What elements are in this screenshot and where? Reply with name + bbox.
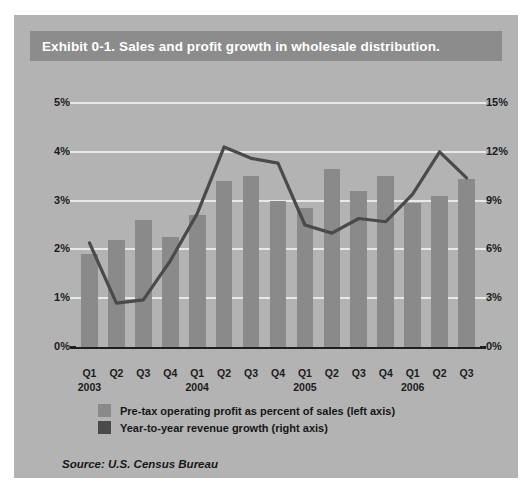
- x-tick-label: Q2: [318, 367, 345, 379]
- right-axis-tick-label: 6%: [486, 242, 526, 254]
- plot-frame: 0%1%2%3%4%5% 0%3%6%9%12%15% Q12003Q2Q3Q4…: [28, 85, 504, 357]
- chart-source: Source: U.S. Census Bureau: [62, 458, 218, 470]
- left-axis-tick-label: 0%: [36, 340, 70, 352]
- x-tick-quarter: Q2: [103, 367, 130, 379]
- left-tick-mark: [70, 248, 76, 250]
- x-tick-label: Q3: [130, 367, 157, 379]
- chart-title-bar: Exhibit 0-1. Sales and profit growth in …: [30, 31, 502, 61]
- x-tick-year: 2006: [399, 381, 426, 393]
- x-tick-quarter: Q1: [291, 367, 318, 379]
- right-axis-tick-label: 3%: [486, 291, 526, 303]
- x-tick-label: Q12003: [76, 367, 103, 393]
- x-tick-label: Q4: [157, 367, 184, 379]
- x-tick-label: Q2: [211, 367, 238, 379]
- x-tick-quarter: Q4: [372, 367, 399, 379]
- revenue-growth-line: [89, 147, 466, 303]
- x-tick-label: Q3: [238, 367, 265, 379]
- x-tick-quarter: Q3: [453, 367, 480, 379]
- legend-label-line: Year-to-year revenue growth (right axis): [120, 422, 328, 434]
- left-axis-tick-label: 2%: [36, 242, 70, 254]
- x-tick-quarter: Q3: [345, 367, 372, 379]
- x-tick-quarter: Q2: [211, 367, 238, 379]
- x-tick-quarter: Q4: [157, 367, 184, 379]
- legend-swatch-bar: [98, 404, 111, 417]
- chart-title: Exhibit 0-1. Sales and profit growth in …: [30, 39, 440, 54]
- x-tick-quarter: Q3: [238, 367, 265, 379]
- x-tick-label: Q4: [265, 367, 292, 379]
- x-tick-label: Q4: [372, 367, 399, 379]
- left-tick-mark: [70, 297, 76, 299]
- x-tick-label: Q2: [103, 367, 130, 379]
- legend-label-bar: Pre-tax operating profit as percent of s…: [120, 405, 395, 417]
- line-series-svg: [76, 103, 480, 347]
- left-tick-mark: [70, 200, 76, 202]
- x-tick-quarter: Q1: [184, 367, 211, 379]
- x-tick-quarter: Q2: [426, 367, 453, 379]
- chart-figure: Exhibit 0-1. Sales and profit growth in …: [14, 15, 518, 478]
- legend-item-bar: Pre-tax operating profit as percent of s…: [98, 404, 395, 417]
- right-axis-tick-label: 9%: [486, 194, 526, 206]
- right-axis-tick-label: 12%: [486, 145, 526, 157]
- x-axis-labels: Q12003Q2Q3Q4Q12004Q2Q3Q4Q12005Q2Q3Q4Q120…: [76, 367, 480, 405]
- left-axis-tick-label: 4%: [36, 145, 70, 157]
- left-axis-tick-label: 5%: [36, 96, 70, 108]
- left-tick-mark: [70, 102, 76, 104]
- x-tick-label: Q2: [426, 367, 453, 379]
- x-tick-label: Q3: [453, 367, 480, 379]
- x-tick-label: Q12006: [399, 367, 426, 393]
- x-tick-year: 2003: [76, 381, 103, 393]
- left-tick-mark: [70, 151, 76, 153]
- right-axis-tick-label: 15%: [486, 96, 526, 108]
- x-tick-label: Q12005: [291, 367, 318, 393]
- right-axis-tick-label: 0%: [486, 340, 526, 352]
- legend-swatch-line: [98, 421, 111, 434]
- x-axis-line: [70, 347, 486, 349]
- x-tick-quarter: Q4: [265, 367, 292, 379]
- x-tick-quarter: Q1: [76, 367, 103, 379]
- plot-area: 0%1%2%3%4%5% 0%3%6%9%12%15%: [76, 103, 480, 347]
- x-tick-quarter: Q3: [130, 367, 157, 379]
- legend-item-line: Year-to-year revenue growth (right axis): [98, 421, 395, 434]
- left-tick-mark: [70, 346, 76, 348]
- chart-legend: Pre-tax operating profit as percent of s…: [98, 404, 395, 438]
- x-tick-quarter: Q1: [399, 367, 426, 379]
- x-tick-label: Q12004: [184, 367, 211, 393]
- x-tick-quarter: Q2: [318, 367, 345, 379]
- left-axis-tick-label: 1%: [36, 291, 70, 303]
- left-axis-tick-label: 3%: [36, 194, 70, 206]
- x-tick-year: 2005: [291, 381, 318, 393]
- x-tick-year: 2004: [184, 381, 211, 393]
- x-tick-label: Q3: [345, 367, 372, 379]
